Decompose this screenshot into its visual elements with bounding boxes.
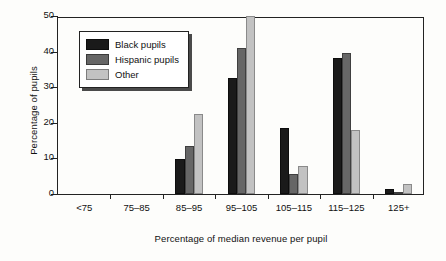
bar	[298, 166, 307, 194]
bar	[185, 146, 194, 194]
x-tick-mark	[268, 194, 269, 199]
bar	[394, 192, 403, 194]
chart-legend: Black pupils Hispanic pupils Other	[79, 31, 189, 88]
y-tick-label: 10	[43, 151, 54, 162]
bar	[237, 48, 246, 194]
legend-label-black-pupils: Black pupils	[115, 39, 166, 50]
bar-chart-figure: Percentage of pupils 01020304050 <7575–8…	[0, 0, 446, 261]
x-tick-mark	[110, 194, 111, 199]
x-tick-label: 75–85	[123, 202, 149, 213]
y-tick-label: 50	[43, 9, 54, 20]
x-tick-label: 95–105	[226, 202, 258, 213]
x-tick-label: 125+	[388, 202, 409, 213]
legend-label-hispanic-pupils: Hispanic pupils	[115, 54, 179, 65]
bar	[289, 174, 298, 194]
x-tick-mark	[373, 194, 374, 199]
x-tick-label: 115–125	[328, 202, 364, 213]
bar	[194, 114, 203, 194]
x-tick-label: <75	[76, 202, 92, 213]
x-tick-mark	[215, 194, 216, 199]
legend-item: Other	[86, 67, 179, 82]
y-tick-label: 20	[43, 116, 54, 127]
bar	[342, 53, 351, 194]
y-tick-label: 0	[49, 187, 54, 198]
x-tick-label: 105–115	[276, 202, 312, 213]
bar	[228, 78, 237, 194]
plot-area: 01020304050 <7575–8585–9595–105105–11511…	[57, 17, 424, 195]
legend-swatch-hispanic-pupils	[86, 54, 109, 65]
bar	[246, 16, 255, 194]
bar	[351, 130, 360, 194]
bar	[333, 58, 342, 194]
y-axis-label: Percentage of pupils	[28, 31, 39, 191]
legend-label-other: Other	[115, 69, 139, 80]
bar	[280, 128, 289, 194]
legend-item: Hispanic pupils	[86, 52, 179, 67]
x-tick-label: 85–95	[176, 202, 202, 213]
bar	[175, 159, 184, 194]
legend-swatch-other	[86, 69, 109, 80]
x-axis-label: Percentage of median revenue per pupil	[57, 233, 425, 244]
y-tick-label: 40	[43, 45, 54, 56]
legend-item: Black pupils	[86, 37, 179, 52]
bar	[385, 189, 394, 194]
y-tick-label: 30	[43, 80, 54, 91]
x-tick-mark	[320, 194, 321, 199]
bar	[403, 184, 412, 194]
x-tick-mark	[163, 194, 164, 199]
legend-swatch-black-pupils	[86, 39, 109, 50]
